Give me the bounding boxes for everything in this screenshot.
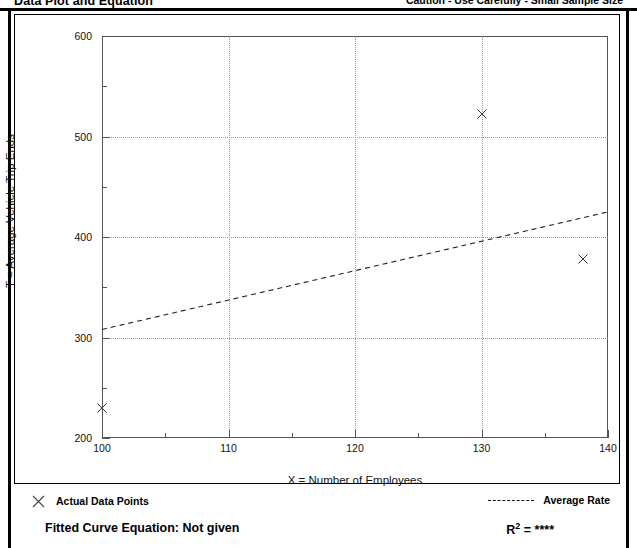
x-tick-label: 130 [473, 442, 491, 454]
x-tick-major [229, 430, 230, 438]
x-axis-title: X = Number of Employees [102, 474, 608, 486]
x-tick-minor [545, 433, 546, 438]
legend-line-label: Average Rate [543, 494, 610, 506]
y-tick-major [102, 137, 110, 138]
gridline-horizontal [102, 338, 608, 339]
y-axis-title: T = Average Vehicle Trip Ends [4, 46, 16, 376]
header-divider [0, 8, 637, 11]
legend-item-line: Average Rate [488, 494, 610, 506]
legend-item-points: Actual Data Points [32, 494, 149, 507]
data-plot-page: Data Plot and Equation Caution - Use Car… [0, 0, 637, 548]
y-tick-major [102, 338, 110, 339]
y-tick-major [102, 438, 110, 439]
dashed-line-icon [488, 500, 534, 501]
y-tick-label: 500 [74, 131, 92, 143]
y-tick-minor [102, 86, 107, 87]
legend-points-label: Actual Data Points [56, 495, 149, 507]
x-marker-icon [32, 494, 45, 507]
x-tick-minor [165, 433, 166, 438]
x-tick-label: 100 [93, 442, 111, 454]
data-point-marker [97, 402, 108, 413]
data-point-marker [476, 109, 487, 120]
x-tick-label: 120 [346, 442, 364, 454]
gridline-horizontal [102, 237, 608, 238]
y-tick-minor [102, 187, 107, 188]
y-tick-minor [102, 287, 107, 288]
y-tick-label: 300 [74, 332, 92, 344]
r2-exponent: 2 [515, 521, 520, 531]
r2-number: = **** [524, 523, 554, 537]
x-tick-major [482, 430, 483, 438]
chart-footer: Fitted Curve Equation: Not given R2 = **… [14, 521, 620, 545]
y-tick-minor [102, 388, 107, 389]
x-tick-label: 140 [599, 442, 617, 454]
y-tick-label: 400 [74, 231, 92, 243]
caution-note: Caution - Use Carefully - Small Sample S… [406, 0, 623, 6]
x-tick-label: 110 [220, 442, 237, 454]
x-tick-minor [292, 433, 293, 438]
chart-legend: Actual Data Points Average Rate [14, 494, 620, 516]
x-tick-minor [418, 433, 419, 438]
data-point-marker [577, 254, 588, 265]
gridline-horizontal [102, 137, 608, 138]
y-tick-major [102, 36, 110, 37]
fitted-curve-equation: Fitted Curve Equation: Not given [45, 521, 239, 535]
x-tick-major [608, 430, 609, 438]
x-tick-major [355, 430, 356, 438]
y-tick-label: 200 [74, 432, 92, 444]
r-squared-value: R2 = **** [506, 521, 554, 537]
chart-plot-area: 100110120130140200300400500600 [102, 36, 608, 438]
y-tick-label: 600 [74, 30, 92, 42]
y-tick-major [102, 237, 110, 238]
r2-prefix: R [506, 523, 515, 537]
right-edge-bar [626, 11, 629, 548]
page-title: Data Plot and Equation [14, 0, 153, 8]
x-tick-major [102, 430, 103, 438]
